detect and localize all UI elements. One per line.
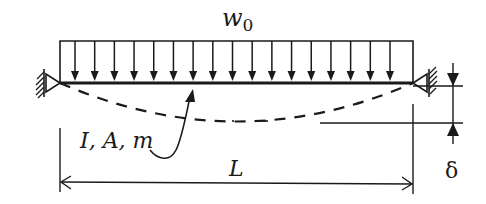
centerline-dot	[232, 120, 234, 122]
span-label: L	[228, 156, 244, 181]
load-arrowhead	[169, 71, 177, 81]
beam-diagram: I, A, m w0 L δ	[0, 0, 486, 204]
load-arrowhead	[110, 71, 118, 81]
load-arrowhead	[229, 71, 237, 81]
deflection-curve	[60, 83, 413, 122]
load-arrowhead	[288, 71, 296, 81]
load-arrowhead	[307, 71, 315, 81]
load-arrowhead	[248, 71, 256, 81]
load-arrowhead	[71, 71, 79, 81]
load-arrowhead	[91, 71, 99, 81]
load-label-subscript: 0	[243, 15, 254, 35]
load-arrowhead	[268, 71, 276, 81]
load-arrowhead	[130, 71, 138, 81]
distributed-load	[60, 41, 413, 83]
load-arrowhead	[150, 71, 158, 81]
property-leader-arrow	[150, 89, 195, 158]
load-arrowhead	[209, 71, 217, 81]
load-label-main: w	[222, 4, 243, 32]
deflection-label: δ	[445, 158, 458, 183]
load-arrows	[71, 41, 394, 81]
load-arrowhead	[347, 71, 355, 81]
load-arrowhead	[366, 71, 374, 81]
load-label: w0	[222, 4, 253, 35]
left-pin-support	[36, 69, 60, 98]
beam-properties-label: I, A, m	[79, 128, 153, 153]
load-arrowhead	[386, 71, 394, 81]
right-pin-support	[413, 67, 437, 97]
load-arrowhead	[327, 71, 335, 81]
load-arrowhead	[189, 71, 197, 81]
